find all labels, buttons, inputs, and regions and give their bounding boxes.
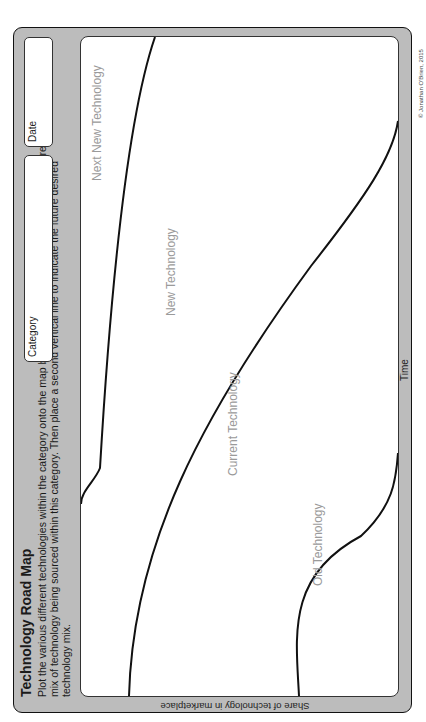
x-axis-label: Time — [399, 359, 410, 381]
category-field[interactable]: Category — [24, 155, 53, 362]
page-title: Technology Road Map — [18, 549, 34, 697]
date-label: Date — [27, 121, 38, 142]
technology-curves — [81, 37, 398, 696]
technology-road-map-sheet: Technology Road Map Plot the various dif… — [13, 27, 412, 713]
region-label-new: New Technology — [164, 228, 178, 316]
current-new-boundary-curve — [129, 121, 398, 696]
y-axis-label: Share of technology in marketplace — [77, 701, 393, 712]
date-field[interactable]: Date — [24, 37, 53, 147]
region-label-old: Old Technology — [311, 504, 325, 587]
category-label: Category — [27, 316, 38, 357]
region-label-next-new: Next New Technology — [90, 65, 104, 181]
region-label-current: Current Technology — [226, 372, 240, 476]
road-map-plot-area[interactable]: Old Technology Current Technology New Te… — [80, 36, 399, 697]
copyright-notice: © Jonathan O'Brien, 2015 — [418, 49, 424, 118]
